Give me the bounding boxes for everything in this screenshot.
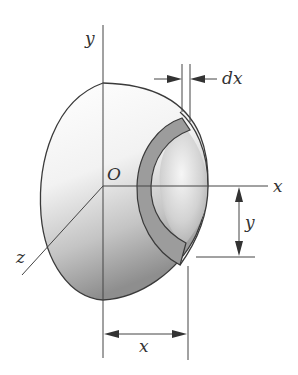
x-dim-arrow-right — [172, 330, 187, 338]
z-axis-label: z — [15, 247, 26, 267]
origin-label: O — [107, 164, 121, 184]
dx-label: dx — [222, 68, 243, 88]
y-dim-arrow-top — [235, 187, 243, 202]
y-dim-arrow-bottom — [235, 241, 243, 256]
y-axis-label: y — [84, 28, 95, 48]
diagram-canvas: y x z O dx y x — [0, 0, 298, 375]
x-axis-label: x — [273, 176, 283, 196]
y-dim-label: y — [244, 212, 255, 232]
x-dim-label: x — [139, 336, 149, 356]
dx-arrow-left-head — [167, 75, 182, 83]
x-dim-arrow-left — [104, 330, 119, 338]
dx-arrow-right-head — [190, 75, 205, 83]
